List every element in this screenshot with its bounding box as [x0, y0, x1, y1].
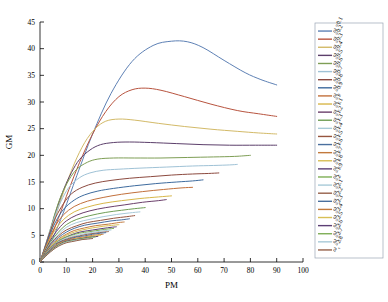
x-tick-label: 0: [38, 266, 42, 275]
y-tick-label: 20: [28, 151, 36, 160]
y-tick-label: 40: [28, 44, 36, 53]
y-tick-label: 5: [31, 231, 35, 240]
x-tick-label: 60: [194, 266, 202, 275]
x-tick-label: 30: [115, 266, 123, 275]
x-axis-label: PM: [165, 280, 178, 290]
y-tick-label: 30: [28, 98, 36, 107]
figure: 0102030405060708090100051015202530354045…: [0, 0, 388, 302]
x-tick-label: 20: [89, 266, 97, 275]
x-tick-label: 90: [273, 266, 281, 275]
y-tick-label: 35: [28, 71, 36, 80]
y-tick-label: 25: [28, 124, 36, 133]
y-tick-label: 45: [28, 18, 36, 27]
chart-svg: 0102030405060708090100051015202530354045…: [0, 0, 388, 302]
series-line: [40, 180, 203, 262]
series-line: [40, 41, 277, 262]
x-tick-label: 10: [63, 266, 71, 275]
curves-group: [40, 41, 277, 262]
x-tick-label: 50: [168, 266, 176, 275]
y-tick-label: 10: [28, 204, 36, 213]
x-tick-label: 80: [247, 266, 255, 275]
x-tick-label: 40: [141, 266, 149, 275]
y-tick-label: 15: [28, 178, 36, 187]
legend-box: [315, 23, 383, 258]
y-axis-label: GM: [4, 135, 14, 150]
y-tick-label: 0: [31, 258, 35, 267]
x-tick-label: 100: [297, 266, 309, 275]
x-tick-label: 70: [220, 266, 228, 275]
